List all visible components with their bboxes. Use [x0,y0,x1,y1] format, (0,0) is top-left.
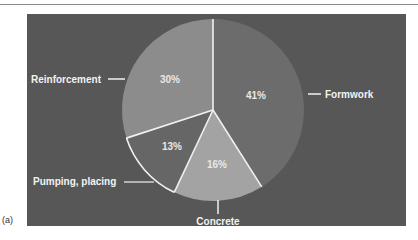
pie-chart: 41% 16% 13% 30% Formwork Concrete Pumpin… [0,0,418,240]
pie-slices [122,19,304,201]
value-label-concrete: 16% [207,159,227,170]
category-label-pumping: Pumping, placing [33,176,116,187]
value-label-reinforcement: 30% [160,74,180,85]
value-label-formwork: 41% [246,90,266,101]
category-label-reinforcement: Reinforcement [31,74,102,85]
category-label-concrete: Concrete [196,216,240,227]
value-label-pumping: 13% [162,141,182,152]
category-label-formwork: Formwork [325,89,374,100]
